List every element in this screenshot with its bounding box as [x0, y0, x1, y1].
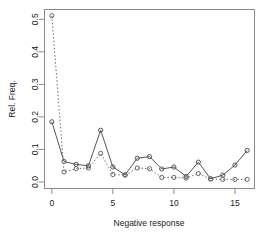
y-tick-label: 0.1 — [30, 143, 40, 155]
x-tick-label: 10 — [169, 198, 179, 208]
y-tick-label: 0.5 — [30, 13, 40, 25]
x-tick-label: 5 — [111, 198, 116, 208]
x-tick-label: 0 — [49, 198, 54, 208]
relative-frequency-line-chart: 0.00.10.20.30.40.5 051015 Negative respo… — [0, 0, 267, 236]
y-tick-label: 0.4 — [30, 46, 40, 58]
y-tick-label: 0.0 — [30, 176, 40, 188]
x-tick-label: 15 — [230, 198, 240, 208]
chart-container: 0.00.10.20.30.40.5 051015 Negative respo… — [0, 0, 267, 236]
y-tick-label: 0.3 — [30, 78, 40, 90]
y-tick-label: 0.2 — [30, 111, 40, 123]
x-axis-title: Negative response — [114, 218, 185, 228]
chart-background — [0, 0, 267, 236]
y-axis-title: Rel. Freq. — [7, 80, 17, 117]
